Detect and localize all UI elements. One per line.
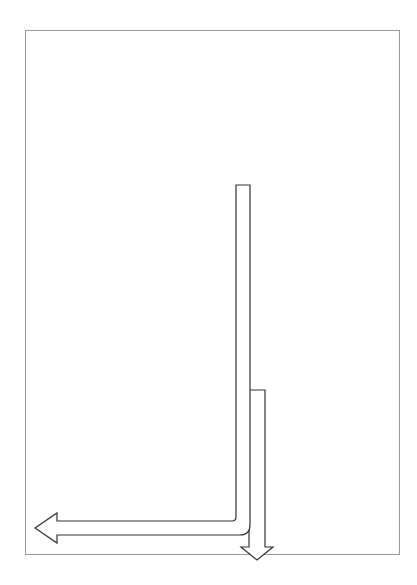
up-turn-arrow-icon (35, 185, 250, 543)
planning-p-diagram (0, 0, 417, 585)
cycle-arrows (0, 0, 417, 585)
